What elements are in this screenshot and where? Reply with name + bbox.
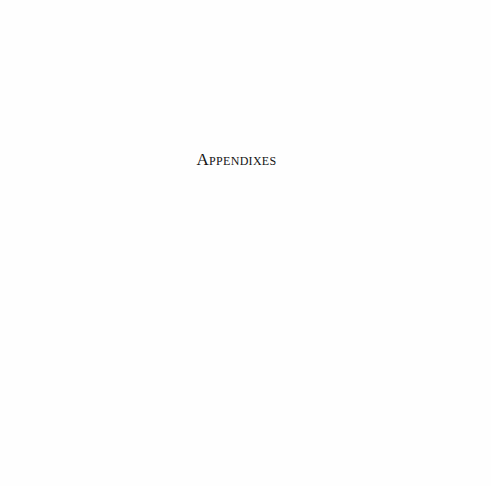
document-page: Appendixes (0, 0, 491, 486)
section-title: Appendixes (0, 150, 473, 170)
